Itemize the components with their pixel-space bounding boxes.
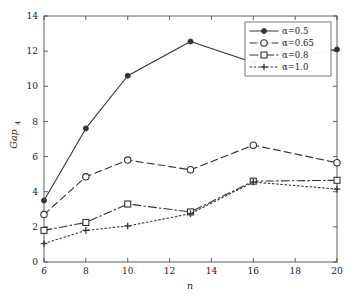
data-point-marker [83,219,89,225]
data-point-marker [125,157,131,163]
y-tick-label-4: 4 [32,187,38,197]
chart-figure: 68101214161820 02468101214 n Gap 4 α=0.5… [0,0,360,305]
x-axis-tick-labels: 68101214161820 [41,266,343,276]
x-tick-label-16: 16 [248,266,260,276]
data-point-marker [250,142,256,148]
data-point-marker [262,29,267,34]
data-point-marker [83,126,88,131]
y-tick-label-2: 2 [32,222,38,232]
x-tick-label-12: 12 [164,266,175,276]
data-point-marker [187,167,193,173]
data-point-marker [41,211,47,217]
y-axis-title: Gap [8,129,19,148]
x-tick-label-6: 6 [41,266,47,276]
legend-label: α=0.5 [282,26,308,36]
x-tick-label-18: 18 [289,266,301,276]
x-tick-label-14: 14 [206,266,218,276]
legend-label: α=0.8 [282,50,308,60]
data-point-marker [41,227,47,233]
x-tick-label-20: 20 [331,266,343,276]
y-axis-tick-labels: 02468101214 [27,11,39,267]
data-point-marker [124,223,131,230]
data-point-marker [41,240,48,247]
data-point-marker [83,227,90,234]
data-point-marker [188,39,193,44]
data-point-marker [125,201,131,207]
y-axis-title-subscript: 4 [14,121,22,125]
y-tick-label-8: 8 [32,117,38,127]
line-chart: 68101214161820 02468101214 n Gap 4 α=0.5… [0,0,360,305]
y-tick-label-0: 0 [32,257,38,267]
data-point-marker [334,160,340,166]
data-point-marker [334,177,340,183]
data-point-marker [42,198,47,203]
series---1.0 [41,179,341,247]
series---0.65 [41,142,340,218]
data-point-marker [261,40,267,46]
data-point-marker [335,47,340,52]
y-tick-label-10: 10 [27,81,39,91]
x-tick-label-10: 10 [122,266,134,276]
y-tick-label-12: 12 [27,46,38,56]
y-tick-label-6: 6 [32,152,38,162]
x-tick-label-8: 8 [83,266,89,276]
x-axis-title: n [187,280,193,291]
legend-label: α=1.0 [282,62,308,72]
data-point-marker [261,52,267,58]
y-tick-label-14: 14 [27,11,39,21]
data-point-marker [125,73,130,78]
data-point-marker [83,174,89,180]
y-axis-title-group: Gap 4 [8,121,22,149]
chart-legend: α=0.5α=0.65α=0.8α=1.0 [245,22,331,76]
legend-label: α=0.65 [282,38,314,48]
